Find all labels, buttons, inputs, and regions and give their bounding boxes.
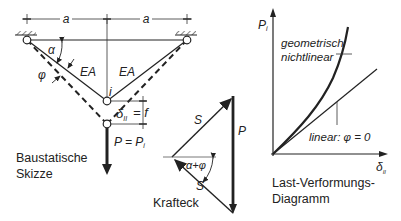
y-axis-label: Pi: [258, 18, 268, 32]
diagram-caption-line1: Last-Verformungs-: [272, 176, 375, 190]
linear-label: linear: φ = 0: [309, 131, 371, 143]
nonlinear-label-line2: nichtlinear: [281, 51, 335, 63]
dimension-label-right: a: [143, 12, 150, 26]
hinge-left-icon: [23, 36, 31, 44]
force-s-top: [172, 99, 231, 157]
node-displaced-icon: [103, 120, 111, 128]
angle-alpha-arc: [57, 42, 62, 63]
angle-phi-label: φ: [38, 68, 46, 82]
structural-sketch: a a α φ EA EA: [15, 12, 197, 181]
figure-canvas: a a α φ EA EA: [0, 0, 401, 221]
nonlinear-label-line1: geometrisch: [281, 37, 344, 49]
angle-phi-arrow-bottom: [52, 76, 60, 83]
sketch-caption-line1: Baustatische: [16, 151, 88, 165]
load-deflection-diagram: Pi δII geometrisch nichtlinear linear: φ…: [258, 8, 388, 206]
hinge-right-icon: [183, 36, 191, 44]
load-arrow-icon: [102, 164, 112, 175]
angle-alpha-label: α: [48, 43, 56, 57]
force-polygon-caption: Krafteck: [153, 196, 200, 210]
diagram-caption-line2: Diagramm: [272, 192, 330, 206]
y-axis-arrow-icon: [270, 8, 276, 17]
node-label: i: [109, 85, 112, 99]
bar-right-stiffness: EA: [119, 65, 135, 79]
support-left-icon: [15, 31, 37, 35]
bar-left-stiffness: EA: [80, 65, 96, 79]
angle-phi-arrow-top: [68, 59, 74, 68]
x-axis-arrow-icon: [379, 151, 388, 157]
x-axis-label: δII: [376, 160, 386, 175]
load-label: P = Pi: [114, 135, 145, 149]
force-polygon: α+φ S S P Krafteck: [153, 96, 246, 214]
force-p-label: P: [238, 124, 246, 138]
force-s-bottom-label: S: [196, 179, 204, 193]
dimension-label-left: a: [63, 12, 70, 26]
force-s-top-label: S: [194, 113, 202, 127]
angle-alpha-phi-label: α+φ: [186, 159, 206, 171]
support-right-icon: [175, 31, 197, 35]
bar-left-deformed: [27, 40, 107, 124]
sketch-caption-line2: Skizze: [16, 167, 53, 181]
deflection-symbol: δII: [116, 106, 127, 122]
deflection-equals-f: = f: [133, 105, 149, 120]
